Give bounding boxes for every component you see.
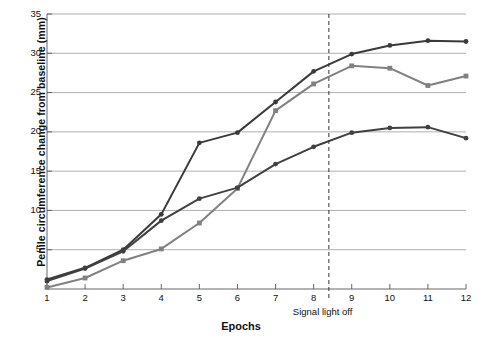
data-point [387,66,392,71]
data-point [426,125,431,130]
data-point [121,258,126,263]
data-point [83,276,88,281]
series-line-series-dark-upper [47,41,466,280]
data-point [45,279,50,284]
data-point [235,185,240,190]
data-point [464,136,469,141]
data-point [197,196,202,201]
data-point [349,130,354,135]
data-point [387,126,392,131]
data-point [464,74,469,79]
data-point [311,144,316,149]
data-point [45,285,50,290]
chart-plot-area [0,0,482,338]
data-point [311,69,316,74]
data-point [273,100,278,105]
data-point [159,218,164,223]
data-point [197,140,202,145]
data-point [349,52,354,57]
data-point [159,247,164,252]
data-point [464,39,469,44]
data-point [159,212,164,217]
data-point [426,38,431,43]
data-point [235,130,240,135]
data-point [273,108,278,113]
data-point [273,162,278,167]
data-point [121,249,126,254]
data-point [349,63,354,68]
data-point [387,43,392,48]
data-point [311,82,316,87]
data-point [197,221,202,226]
chart-figure: Penile circumference change from baselin… [0,0,482,338]
data-point [83,266,88,271]
data-point [426,83,431,88]
